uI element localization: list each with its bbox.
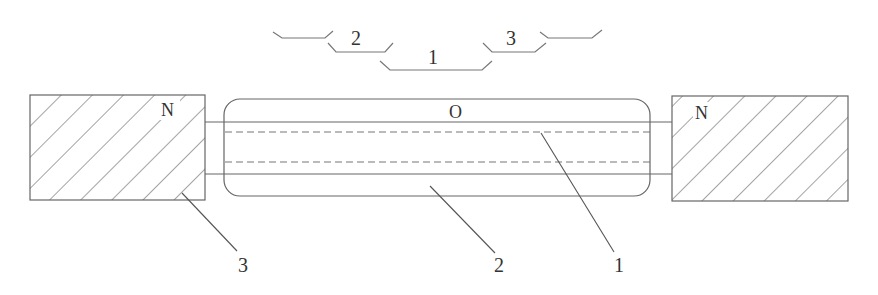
right-block-label-n: N (695, 103, 708, 123)
bracket-outer-right (540, 30, 602, 38)
callout-label-3: 3 (238, 254, 248, 276)
bracket-label-1: 1 (428, 46, 438, 68)
left-hatched-block (30, 95, 205, 200)
leader-lines (182, 133, 614, 253)
leader-line-1 (541, 133, 614, 252)
bracket-outer-left (273, 31, 333, 38)
leader-line-3 (182, 193, 237, 251)
callout-label-1: 1 (614, 254, 624, 276)
bracket-label-2: 2 (351, 27, 361, 49)
diagram-canvas: 2 1 3 N N O 3 2 1 (0, 0, 878, 295)
center-label-o: O (449, 102, 462, 122)
bracket-label-3: 3 (506, 27, 516, 49)
left-block-label-n: N (161, 100, 174, 120)
outer-capsule (224, 99, 650, 196)
callout-label-2: 2 (494, 254, 504, 276)
